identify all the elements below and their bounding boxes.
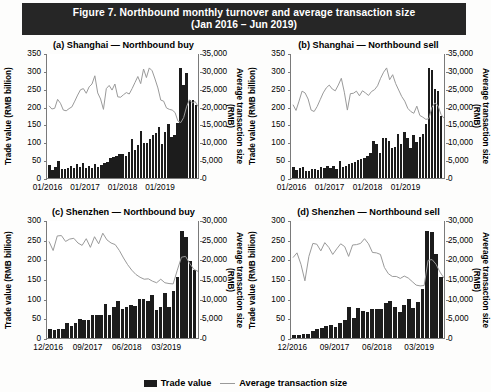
y-axis-title-left-d: Trade value (RMB billion): [248, 221, 258, 339]
y-ticks-left-b: 050100150200250300350: [258, 54, 288, 179]
tick-mark: [200, 221, 203, 222]
x-tick-label: 09/2017: [73, 342, 103, 353]
x-tick-label: 03/2019: [404, 342, 434, 353]
y-tick-label: 350: [27, 50, 41, 58]
legend-line-swatch-icon: [220, 383, 235, 384]
legend-label-avg-transaction-size: Average transaction size: [239, 378, 347, 388]
x-tick-label: 01/2016: [33, 182, 63, 193]
y2-tick-label: 25,000: [202, 86, 227, 94]
tick-mark: [446, 143, 449, 144]
x-ticks-b: 01/201601/201701/201801/2019: [290, 182, 445, 193]
x-tick-label: 01/2016: [277, 182, 307, 193]
y-tick-label: 300: [271, 217, 285, 225]
tick-mark: [288, 339, 291, 340]
y-tick-label: 50: [276, 315, 285, 323]
tick-mark: [446, 300, 449, 301]
tick-mark: [446, 125, 449, 126]
y-ticks-left-a: 050100150200250300350: [14, 54, 44, 179]
x-tick-label: 01/2017: [315, 182, 345, 193]
y2-tick-label: 25,000: [202, 237, 227, 245]
y-tick-label: 350: [271, 50, 285, 58]
y2-tick-label: 5,000: [448, 157, 469, 165]
y2-tick-label: 15,000: [202, 121, 227, 129]
y-tick-label: 200: [27, 256, 41, 264]
y2-tick-label: 35,000: [448, 50, 473, 58]
y2-tick-label: 25,000: [448, 237, 473, 245]
tick-mark: [44, 339, 47, 340]
avg-transaction-size-line: [49, 68, 198, 123]
tick-mark: [200, 90, 203, 91]
tick-mark: [446, 179, 449, 180]
y-tick-label: 250: [27, 237, 41, 245]
y-tick-label: 250: [27, 86, 41, 94]
y-axis-title-left-b: Trade value (RMB billion): [248, 54, 258, 179]
x-tick-label: 06/2018: [112, 342, 142, 353]
tick-mark: [446, 260, 449, 261]
plot-area-d: [290, 221, 445, 339]
chart-panel-b: (b) Shanghai — Northbound sellTrade valu…: [246, 38, 491, 205]
y2-tick-label: 5,000: [202, 315, 223, 323]
plot-area-c: [46, 221, 199, 339]
y2-tick-label: 15,000: [202, 276, 227, 284]
y2-tick-label: 5,000: [448, 315, 469, 323]
tick-mark: [200, 125, 203, 126]
figure-title-line1: Figure 7. Northbound monthly turnover an…: [73, 7, 415, 19]
y-ticks-left-c: 050100150200250300: [14, 221, 44, 339]
tick-mark: [200, 108, 203, 109]
chart-panel-a: (a) Shanghai — Northbound buyTrade value…: [2, 38, 245, 205]
tick-mark: [288, 179, 291, 180]
line-series-c: [47, 221, 200, 339]
avg-transaction-size-line: [49, 233, 198, 284]
y-tick-label: 100: [27, 139, 41, 147]
figure-root: Figure 7. Northbound monthly turnover an…: [0, 0, 491, 392]
y-tick-label: 100: [271, 139, 285, 147]
y-tick-label: 200: [271, 104, 285, 112]
y2-tick-label: 15,000: [448, 121, 473, 129]
y-tick-label: 200: [27, 104, 41, 112]
figure-title-banner: Figure 7. Northbound monthly turnover an…: [22, 3, 466, 35]
plot-area-b: [290, 54, 445, 179]
x-ticks-c: 12/201609/201706/201803/2019: [46, 342, 199, 353]
tick-mark: [446, 54, 449, 55]
x-ticks-a: 01/201601/201701/201801/2019: [46, 182, 199, 193]
tick-mark: [200, 241, 203, 242]
y2-tick-label: 35,000: [202, 50, 227, 58]
chart-panel-c: (c) Shenzhen — Northbound buyTrade value…: [2, 205, 245, 365]
x-tick-label: 09/2017: [320, 342, 350, 353]
legend-bar-swatch-icon: [144, 380, 157, 387]
y2-tick-label: 20,000: [202, 104, 227, 112]
line-series-d: [291, 221, 446, 339]
y2-tick-label: 20,000: [448, 256, 473, 264]
tick-mark: [446, 72, 449, 73]
tick-mark: [200, 143, 203, 144]
x-tick-label: 01/2017: [70, 182, 100, 193]
y-tick-label: 200: [271, 256, 285, 264]
x-tick-label: 06/2018: [362, 342, 392, 353]
y-ticks-right-d: 05,00010,00015,00020,00025,00030,000: [445, 221, 475, 339]
legend-label-trade-value: Trade value: [161, 378, 212, 388]
plot-area-a: [46, 54, 199, 179]
chart-panel-d: (d) Shenzhen — Northbound sellTrade valu…: [246, 205, 491, 365]
y2-tick-label: 10,000: [448, 296, 473, 304]
tick-mark: [200, 161, 203, 162]
tick-mark: [200, 300, 203, 301]
y2-tick-label: 15,000: [448, 276, 473, 284]
avg-transaction-size-line: [293, 239, 444, 286]
line-series-a: [47, 54, 200, 179]
y-tick-label: 300: [271, 68, 285, 76]
y-axis-title-left-a: Trade value (RMB billion): [4, 54, 14, 179]
y-ticks-right-b: 05,00010,00015,00020,00025,00030,00035,0…: [445, 54, 475, 179]
tick-mark: [200, 179, 203, 180]
y2-tick-label: 30,000: [448, 217, 473, 225]
tick-mark: [446, 90, 449, 91]
tick-mark: [200, 319, 203, 320]
y-tick-label: 150: [27, 121, 41, 129]
y2-tick-label: 30,000: [202, 217, 227, 225]
y2-tick-label: 5,000: [202, 157, 223, 165]
y-tick-label: 250: [271, 86, 285, 94]
x-tick-label: 01/2019: [391, 182, 421, 193]
tick-mark: [446, 241, 449, 242]
y2-tick-label: 20,000: [448, 104, 473, 112]
tick-mark: [446, 161, 449, 162]
tick-mark: [446, 339, 449, 340]
